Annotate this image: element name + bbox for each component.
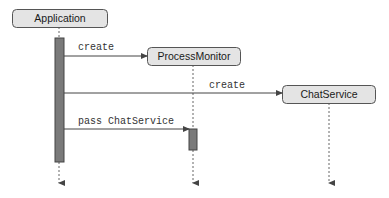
message-pass-chatservice: pass ChatService (64, 116, 189, 129)
message-create-chatservice: create (64, 80, 282, 93)
actor-label-processmonitor: ProcessMonitor (158, 50, 231, 62)
sequence-diagram: Application ProcessMonitor ChatService c… (0, 0, 389, 198)
message-label: create (209, 80, 245, 91)
message-label: pass ChatService (78, 116, 174, 127)
activation-bar-application (55, 38, 64, 162)
message-create-processmonitor: create (64, 42, 147, 56)
actor-application: Application (13, 10, 108, 28)
actor-processmonitor: ProcessMonitor (148, 48, 241, 66)
actor-label-chatservice: ChatService (300, 88, 357, 100)
actor-chatservice: ChatService (283, 86, 376, 104)
message-label: create (78, 42, 114, 53)
activation-bar-processmonitor (189, 129, 197, 150)
actor-label-application: Application (34, 12, 86, 24)
